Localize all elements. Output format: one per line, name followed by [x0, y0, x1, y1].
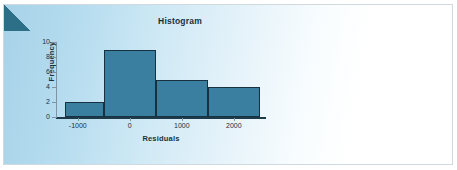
y-axis-tick-label: 10 [42, 38, 50, 45]
x-axis-tick [182, 118, 183, 121]
histogram-bar [156, 80, 208, 118]
x-axis-tick-label: -1000 [69, 122, 87, 129]
plot-area [57, 42, 265, 117]
histogram-bar [104, 50, 156, 118]
y-axis-tick-label: 0 [46, 113, 50, 120]
histogram-chart: Histogram Frequency Residuals 0246810 -1… [0, 0, 457, 170]
histogram-bar [208, 87, 260, 117]
y-axis-tick-label: 6 [46, 68, 50, 75]
x-axis-tick-label: 2000 [226, 122, 242, 129]
x-axis-title: Residuals [57, 134, 265, 143]
histogram-bar [65, 102, 104, 117]
figure-root: Histogram Frequency Residuals 0246810 -1… [0, 0, 457, 170]
x-axis-tick [78, 118, 79, 121]
x-axis-tick-label: 0 [128, 122, 132, 129]
x-axis-tick [130, 118, 131, 121]
y-axis-tick: 0 [52, 117, 57, 118]
x-axis-tick [234, 118, 235, 121]
y-axis-tick-label: 2 [46, 98, 50, 105]
chart-title: Histogram [110, 16, 250, 26]
y-axis-tick-label: 4 [46, 83, 50, 90]
x-axis-tick-label: 1000 [174, 122, 190, 129]
y-axis-tick-label: 8 [46, 53, 50, 60]
